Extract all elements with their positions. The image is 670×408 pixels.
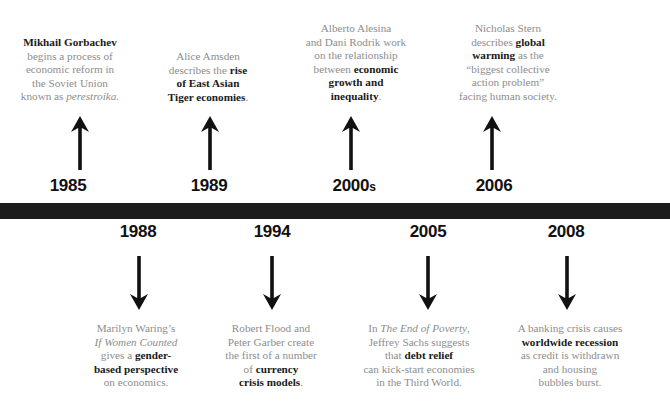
event-text-line: Jeffrey Sachs suggests [339, 336, 499, 350]
event-text-1994: Robert Flood andPeter Garber createthe f… [197, 322, 345, 390]
event-text-line: as credit is withdrawn [490, 349, 650, 363]
event-text-line: crisis models. [197, 376, 345, 390]
event-text-line: facing human society. [432, 90, 584, 104]
event-text-line: A banking crisis causes [490, 322, 650, 336]
year-label-2005: 2005 [410, 222, 447, 242]
event-text-line: of currency [197, 363, 345, 377]
event-text-line: growth and [281, 76, 431, 90]
event-text-2006: Nicholas Sterndescribes globalwarming as… [432, 22, 584, 104]
event-text-line: Marilyn Waring’s [63, 322, 209, 336]
event-text-line: Alice Amsden [138, 50, 278, 64]
event-text-2000s: Alberto Alesinaand Dani Rodrik workon th… [281, 22, 431, 104]
event-text-line: economic reform in [0, 63, 140, 77]
event-text-line: on economics. [63, 376, 209, 390]
event-text-1989: Alice Amsdendescribes the riseof East As… [138, 50, 278, 104]
year-label-1988: 1988 [120, 222, 157, 242]
year-label-1989: 1989 [191, 176, 228, 196]
event-text-1988: Marilyn Waring’sIf Women Countedgives a … [63, 322, 209, 390]
event-text-line: worldwide recession [490, 336, 650, 350]
event-text-line: describes the rise [138, 64, 278, 78]
up-arrow-icon-2000s [338, 114, 364, 170]
year-label-1994: 1994 [254, 222, 291, 242]
event-text-line: “biggest collective [432, 63, 584, 77]
event-text-line: Tiger economies. [138, 91, 278, 105]
event-text-line: bubbles burst. [490, 376, 650, 390]
event-text-line: Peter Garber create [197, 336, 345, 350]
down-arrow-icon-1994 [259, 256, 285, 312]
event-text-line: inequality. [281, 90, 431, 104]
event-text-line: on the relationship [281, 49, 431, 63]
timeline-infographic: Mikhail Gorbachevbegins a process ofecon… [0, 0, 670, 408]
event-text-line: gives a gender- [63, 349, 209, 363]
event-text-line: If Women Counted [63, 336, 209, 350]
up-arrow-icon-2006 [479, 114, 505, 170]
event-text-line: warming as the [432, 49, 584, 63]
up-arrow-icon-1989 [197, 114, 223, 170]
year-label-2000s: 2000s [333, 176, 376, 196]
event-text-line: the first of a number [197, 349, 345, 363]
event-text-2008: A banking crisis causesworldwide recessi… [490, 322, 650, 390]
event-text-2005: In The End of Poverty,Jeffrey Sachs sugg… [339, 322, 499, 390]
down-arrow-icon-1988 [126, 256, 152, 312]
event-text-line: and housing [490, 363, 650, 377]
event-text-line: the Soviet Union [0, 77, 140, 91]
event-text-line: begins a process of [0, 50, 140, 64]
event-text-line: in the Third World. [339, 376, 499, 390]
timeline-bar [0, 203, 670, 219]
event-text-1985: Mikhail Gorbachevbegins a process ofecon… [0, 36, 140, 104]
down-arrow-icon-2008 [554, 256, 580, 312]
up-arrow-icon-1985 [67, 114, 93, 170]
event-text-line: of East Asian [138, 77, 278, 91]
year-label-2006: 2006 [476, 176, 513, 196]
event-text-line: In The End of Poverty, [339, 322, 499, 336]
down-arrow-icon-2005 [415, 256, 441, 312]
event-text-line: can kick-start economies [339, 363, 499, 377]
year-label-2008: 2008 [548, 222, 585, 242]
event-text-line: describes global [432, 36, 584, 50]
event-text-line: based perspective [63, 363, 209, 377]
event-text-line: action problem” [432, 76, 584, 90]
event-text-line: Robert Flood and [197, 322, 345, 336]
event-text-line: Mikhail Gorbachev [0, 36, 140, 50]
year-label-1985: 1985 [50, 176, 87, 196]
event-text-line: Alberto Alesina [281, 22, 431, 36]
event-text-line: between economic [281, 63, 431, 77]
event-text-line: and Dani Rodrik work [281, 36, 431, 50]
event-text-line: Nicholas Stern [432, 22, 584, 36]
event-text-line: that debt relief [339, 349, 499, 363]
event-text-line: known as perestroika. [0, 90, 140, 104]
